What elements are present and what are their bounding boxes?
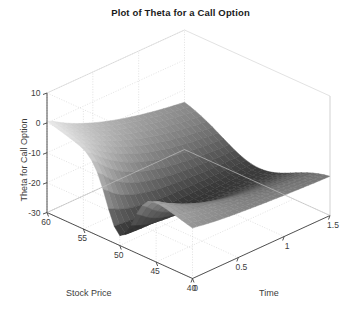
svg-text:1.5: 1.5 — [327, 220, 339, 230]
figure-canvas: Plot of Theta for a Call Option 100-10-2… — [0, 0, 361, 318]
y-axis-title: Time — [259, 288, 279, 298]
svg-text:0: 0 — [36, 118, 41, 128]
svg-text:60: 60 — [41, 217, 51, 227]
svg-text:-30: -30 — [28, 208, 41, 218]
svg-text:-10: -10 — [28, 148, 41, 158]
svg-text:-20: -20 — [28, 178, 41, 188]
svg-text:0: 0 — [193, 283, 198, 293]
svg-text:10: 10 — [31, 88, 41, 98]
svg-text:50: 50 — [114, 250, 124, 260]
z-axis-title: Theta for Call Option — [19, 105, 29, 215]
svg-text:0.5: 0.5 — [235, 262, 247, 272]
surface-mesh — [47, 102, 330, 235]
svg-text:55: 55 — [78, 233, 88, 243]
surface-plot-3d: 100-10-20-30605550454000.511.5 — [0, 0, 361, 318]
svg-text:45: 45 — [150, 266, 160, 276]
svg-text:1: 1 — [285, 241, 290, 251]
x-axis-title: Stock Price — [66, 288, 112, 298]
